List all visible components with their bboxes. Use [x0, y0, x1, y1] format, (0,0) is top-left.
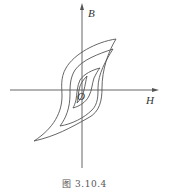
- b-axis-label: B: [88, 8, 95, 19]
- figure-caption: 图 3.10.4: [0, 177, 169, 190]
- second-loop: [60, 49, 113, 126]
- origin-label: O: [77, 91, 85, 102]
- b-axis-arrow-icon: [80, 3, 84, 10]
- h-axis-arrow-icon: [152, 88, 159, 92]
- h-axis-label: H: [146, 95, 154, 106]
